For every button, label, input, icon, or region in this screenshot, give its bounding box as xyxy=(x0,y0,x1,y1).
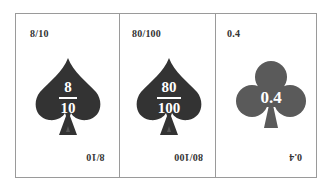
corner-label-top: 80/100 xyxy=(132,28,161,39)
fraction-bar xyxy=(157,97,181,99)
spade-icon: 80 100 xyxy=(136,58,202,136)
fraction: 80 100 xyxy=(136,80,202,116)
card-row: 8/10 8 10 8/10 80/100 80 100 xyxy=(15,13,317,178)
corner-label-bottom: 80/100 xyxy=(174,152,203,163)
club-value: 0.4 xyxy=(236,88,306,108)
spade-icon: 8 10 xyxy=(35,58,101,136)
corner-label-top: 0.4 xyxy=(227,28,240,39)
denominator: 100 xyxy=(158,101,181,116)
club-icon: 0.4 xyxy=(236,61,306,129)
fraction-bar xyxy=(59,97,77,99)
corner-label-bottom: 0.4 xyxy=(289,152,302,163)
corner-label-top: 8/10 xyxy=(30,28,49,39)
numerator: 8 xyxy=(64,80,72,95)
denominator: 10 xyxy=(61,101,76,116)
fraction: 8 10 xyxy=(35,80,101,116)
corner-label-bottom: 8/10 xyxy=(86,152,105,163)
card-fraction-8-10[interactable]: 8/10 8 10 8/10 xyxy=(16,14,119,177)
numerator: 80 xyxy=(162,80,177,95)
card-decimal-0-4[interactable]: 0.4 0.4 0.4 xyxy=(215,14,316,177)
card-fraction-80-100[interactable]: 80/100 80 100 80/100 xyxy=(119,14,215,177)
